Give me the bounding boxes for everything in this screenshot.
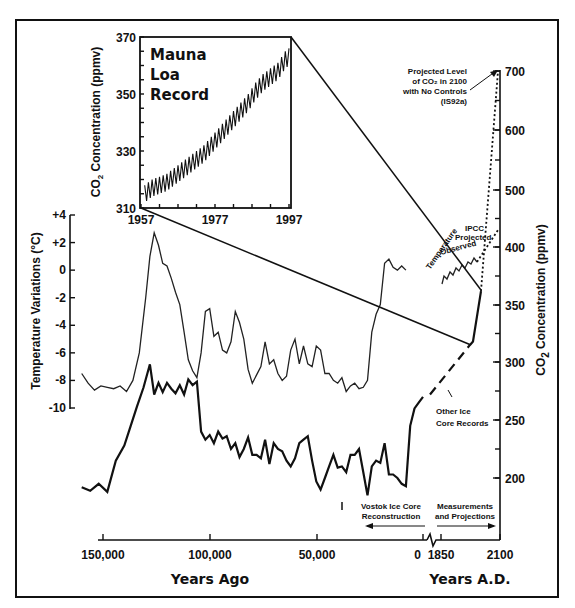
x-tick-label: 100,000	[188, 548, 232, 562]
svg-text:(IS92a): (IS92a)	[441, 97, 468, 106]
inset-title-line2: Loa	[150, 66, 180, 84]
right-tick-label: 300	[505, 356, 525, 370]
co2-measurements-series	[470, 291, 481, 345]
annotation-temperature-observed: Temperature Observed IPCC Projected	[424, 224, 491, 271]
svg-text:Reconstruction: Reconstruction	[362, 512, 421, 521]
co2-other-ice-core-series	[430, 345, 470, 395]
right-tick-label: 700	[505, 65, 525, 79]
inset-y-tick-label: 350	[116, 88, 136, 102]
annotation-measurements: Measurements and Projections	[435, 502, 496, 529]
svg-text:and Projections: and Projections	[435, 512, 496, 521]
x-axis: 150,000100,00050,000018502100 Years Ago …	[81, 534, 513, 587]
inset-connector-bottom	[141, 208, 471, 345]
svg-text:of CO₂ in 2100: of CO₂ in 2100	[412, 77, 467, 86]
svg-text:Other Ice: Other Ice	[436, 407, 471, 416]
left-tick-label: -8	[55, 373, 66, 387]
right-tick-label: 350	[505, 299, 525, 313]
right-axis-title: CO2 Concentration (ppmv)	[534, 224, 551, 376]
x-tick-label: 2100	[487, 548, 514, 562]
x-axis-title-years-ad: Years A.D.	[428, 571, 510, 587]
inset-title-line3: Record	[150, 86, 209, 104]
left-tick-label: 0	[59, 263, 66, 277]
left-tick-label: -4	[55, 318, 66, 332]
temperature-series	[82, 233, 406, 392]
inset-y-tick-label: 370	[116, 31, 136, 45]
inset-x-tick-label: 1977	[202, 213, 229, 227]
svg-text:IPCC: IPCC	[465, 224, 484, 233]
inset-x-tick-label: 1997	[276, 213, 303, 227]
left-tick-label: -10	[49, 401, 67, 415]
left-tick-label: +4	[52, 208, 66, 222]
x-tick-label: 0	[414, 548, 421, 562]
co2-temperature-chart: +4+20-2-4-6-8-10 Temperature Variations …	[0, 0, 575, 608]
annotation-vostok: Vostok Ice Core Reconstruction	[361, 502, 425, 529]
right-tick-label: 500	[505, 184, 525, 198]
svg-text:Vostok Ice Core: Vostok Ice Core	[361, 502, 421, 511]
x-tick-label: 150,000	[81, 548, 125, 562]
svg-text:Projected Level: Projected Level	[408, 67, 467, 76]
right-tick-label: 250	[505, 414, 525, 428]
inset-y-tick-label: 330	[116, 145, 136, 159]
x-tick-label: 50,000	[299, 548, 336, 562]
right-co2-axis: 700600500400350300250200 CO2 Concentrati…	[493, 65, 551, 540]
inset-y-axis-title: CO2 Concentration (ppmv)	[89, 47, 105, 197]
mauna-loa-inset: 370350330310195719771997 Mauna Loa Recor…	[89, 31, 303, 227]
annotation-other-ice-core: Other Ice Core Records	[436, 390, 489, 428]
left-tick-label: -2	[55, 291, 66, 305]
svg-text:Projected: Projected	[455, 233, 492, 242]
inset-title-line1: Mauna	[150, 46, 207, 64]
x-axis-title-years-ago: Years Ago	[170, 571, 250, 587]
inset-x-tick-label: 1957	[128, 213, 155, 227]
svg-text:Core Records: Core Records	[436, 419, 489, 428]
left-temperature-axis: +4+20-2-4-6-8-10 Temperature Variations …	[29, 208, 75, 415]
x-tick-label: 1850	[428, 548, 455, 562]
left-axis-title: Temperature Variations (°C)	[29, 232, 43, 389]
right-tick-label: 200	[505, 472, 525, 486]
left-tick-label: +2	[52, 236, 66, 250]
annotation-projected-level: Projected Level of CO₂ in 2100 with No C…	[402, 67, 498, 106]
right-tick-label: 600	[505, 124, 525, 138]
right-tick-label: 400	[505, 241, 525, 255]
co2-projection-series	[481, 71, 498, 291]
svg-text:with No Controls: with No Controls	[402, 87, 468, 96]
svg-text:Measurements: Measurements	[437, 502, 494, 511]
left-tick-label: -6	[55, 346, 66, 360]
